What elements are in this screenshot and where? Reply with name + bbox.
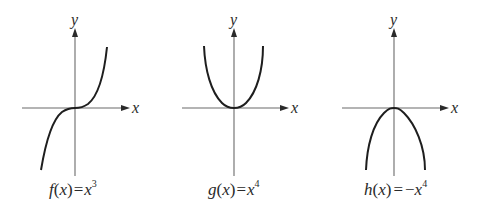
func-base: x	[415, 180, 423, 199]
panel-h-y-label: y	[390, 12, 397, 28]
panel-g-graph	[182, 28, 289, 176]
panel-f-graph	[22, 28, 130, 176]
equals-sign: =	[236, 180, 246, 199]
y-axis-arrow-icon	[231, 28, 237, 37]
func-var: x	[59, 180, 67, 199]
equals-sign: =	[74, 180, 84, 199]
func-base: x	[84, 180, 92, 199]
figure-canvas	[0, 0, 479, 210]
x-axis-arrow-icon	[280, 105, 289, 111]
panel-f-x-label: x	[132, 100, 139, 116]
func-exponent: 4	[255, 178, 260, 189]
panel-g-y-label: y	[230, 12, 237, 28]
y-axis-arrow-icon	[72, 28, 78, 37]
func-base: x	[247, 180, 255, 199]
panel-h-caption: h(x)=−x4	[364, 181, 427, 198]
panel-h-graph	[342, 28, 449, 176]
func-exponent: 4	[422, 178, 427, 189]
y-axis-arrow-icon	[391, 28, 397, 37]
x-axis-arrow-icon	[121, 105, 130, 111]
panel-g-caption: g(x)=x4	[208, 181, 260, 198]
func-var: x	[378, 180, 386, 199]
panel-h-x-label: x	[451, 100, 458, 116]
equals-sign: =	[393, 180, 403, 199]
func-exponent: 3	[92, 178, 97, 189]
func-name: f	[49, 180, 54, 199]
panel-f-caption: f(x)=x3	[49, 181, 97, 198]
quartic-down-curve	[366, 108, 425, 170]
neg-sign: −	[405, 180, 415, 199]
func-name: g	[208, 180, 217, 199]
panel-f-y-label: y	[71, 12, 78, 28]
func-name: h	[364, 180, 373, 199]
func-var: x	[222, 180, 230, 199]
x-axis-arrow-icon	[440, 105, 449, 111]
panel-g-x-label: x	[291, 100, 298, 116]
